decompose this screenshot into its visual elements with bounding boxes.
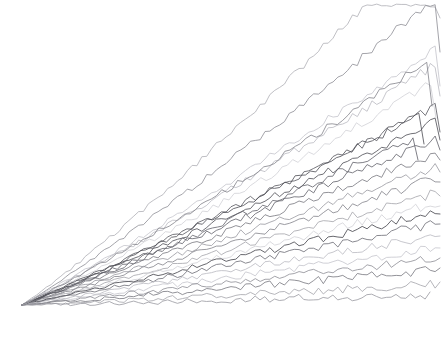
random-walk-chart — [0, 0, 447, 340]
trajectory-plot-canvas — [0, 0, 447, 340]
